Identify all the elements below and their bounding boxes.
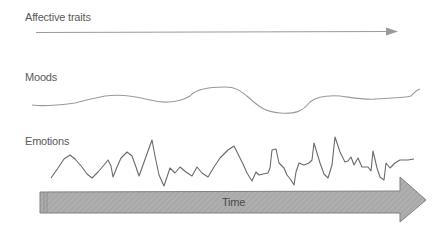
moods-line: [32, 87, 420, 113]
affective-traits-arrow: [36, 28, 398, 36]
emotions-line: [51, 137, 414, 186]
time-label: Time: [222, 196, 245, 208]
